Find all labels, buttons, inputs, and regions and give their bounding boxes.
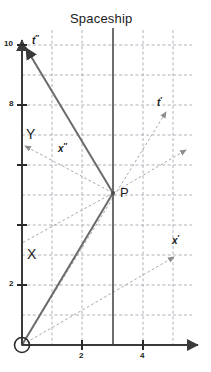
- frame-y-label: Y: [26, 127, 35, 141]
- page-title: Spaceship: [70, 12, 133, 25]
- origin-label: O: [16, 337, 25, 348]
- t-prime-mark: ′: [160, 95, 162, 104]
- outbound-leg: [22, 193, 113, 345]
- point-p-label: P: [120, 186, 129, 199]
- x-prime-ray: [22, 257, 174, 345]
- primed-axes-rays: [22, 49, 186, 345]
- spacetime-diagram-figure: Spaceship 10 8 2 2 4 P Y X t″ t′ x″ x′ O: [0, 0, 211, 372]
- t-double-prime-mark: ″: [35, 33, 39, 42]
- ray-to-x-label: [22, 193, 113, 243]
- y-tick-label-2: 2: [9, 280, 13, 288]
- x-tick-label-4: 4: [140, 352, 144, 360]
- t-double-prime-label: t″: [32, 34, 39, 46]
- diagram-canvas: [0, 0, 211, 372]
- return-leg: [26, 48, 113, 193]
- x-double-prime-mark: ″: [64, 141, 68, 150]
- traveller-worldlines: [22, 48, 113, 345]
- x-double-prime-label: x″: [58, 142, 67, 154]
- point-p-marker: [111, 191, 115, 195]
- y-tick-label-8: 8: [9, 100, 13, 108]
- x-prime-label: x′: [172, 234, 179, 246]
- x-prime-mark: ′: [178, 233, 180, 242]
- x-tick-label-2: 2: [79, 352, 83, 360]
- t-prime-label: t′: [157, 96, 162, 108]
- y-tick-label-10: 10: [4, 40, 13, 48]
- frame-x-label: X: [27, 247, 36, 261]
